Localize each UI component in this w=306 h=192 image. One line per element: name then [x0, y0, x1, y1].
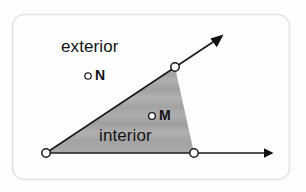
diagonal-ray-point-marker: [171, 63, 179, 71]
point-m-marker: [149, 113, 156, 120]
horizontal-ray-arrowhead: [264, 148, 274, 158]
point-m-label: M: [159, 108, 171, 122]
horizontal-ray-point-marker: [190, 149, 198, 157]
vertex-point-marker: [42, 149, 50, 157]
diagram-canvas: [0, 0, 306, 192]
angle-diagram-figure: exterior interior N M: [0, 0, 306, 192]
interior-region-label: interior: [99, 127, 152, 144]
diagonal-ray-arrowhead: [210, 35, 223, 48]
exterior-region-label: exterior: [61, 38, 119, 55]
point-n-label: N: [95, 68, 105, 82]
point-n-marker: [85, 73, 91, 79]
